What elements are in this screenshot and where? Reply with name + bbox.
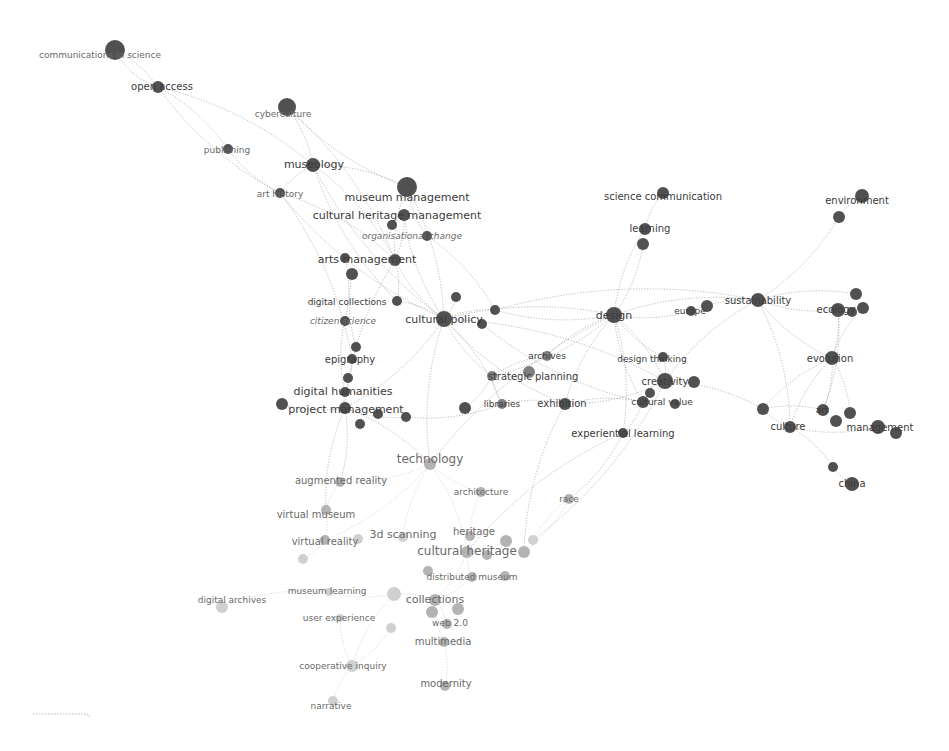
label-museum-learning[interactable]: museum learning <box>288 586 367 596</box>
label-distributed-museum[interactable]: distributed museum <box>427 572 518 582</box>
node-creativity-2[interactable] <box>688 376 700 388</box>
edge-evolution-culture_hub <box>763 358 832 409</box>
label-art-history[interactable]: art history <box>257 189 304 199</box>
node-art-3[interactable] <box>844 407 856 419</box>
label-creativity[interactable]: creativity <box>642 376 689 387</box>
edge-culture_hub-art <box>763 406 823 410</box>
edge-user_experience-cooperative_inquiry <box>340 618 352 666</box>
label-organisational-change[interactable]: organisational change <box>362 231 463 241</box>
label-web-2-0[interactable]: web 2.0 <box>432 618 468 628</box>
label-cultural-heritage[interactable]: cultural heritage <box>417 544 517 558</box>
node-ch-4[interactable] <box>528 535 538 545</box>
label-epigraphy[interactable]: epigraphy <box>325 354 376 365</box>
label-libraries[interactable]: libraries <box>484 399 521 409</box>
label-architecture[interactable]: architecture <box>454 487 509 497</box>
label-digital-archives[interactable]: digital archives <box>198 595 267 605</box>
node-collections-left[interactable] <box>387 587 401 601</box>
label-europe[interactable]: europe <box>674 306 706 316</box>
label-technology[interactable]: technology <box>397 452 464 466</box>
edge-sustainability-environment_2 <box>758 217 839 300</box>
label-digital-humanities[interactable]: digital humanities <box>294 385 393 398</box>
node-culture-hub[interactable] <box>757 403 769 415</box>
label-museum-management[interactable]: museum management <box>344 191 470 204</box>
edge-experiential_learning-race <box>569 433 623 499</box>
label-virtual-reality[interactable]: virtual reality <box>292 536 359 547</box>
label-augmented-reality[interactable]: augmented reality <box>295 475 387 486</box>
label-design[interactable]: design <box>596 309 633 322</box>
node-cp-near-2[interactable] <box>490 305 500 315</box>
label-citizen-science[interactable]: citizen science <box>310 316 377 326</box>
edge-arts_management_3-epigraphy_2 <box>349 274 356 347</box>
label-cultural-policy[interactable]: cultural policy <box>405 313 483 326</box>
label-strategic-planning[interactable]: strategic planning <box>488 371 579 382</box>
label-learning[interactable]: learning <box>630 223 671 234</box>
node-china-2[interactable] <box>828 462 838 472</box>
keyword-network-diagram: communications in scienceopen accesscybe… <box>0 0 949 751</box>
label-archives[interactable]: archives <box>528 351 566 361</box>
label-culture[interactable]: culture <box>771 421 806 432</box>
label-collections[interactable]: collections <box>406 593 465 606</box>
edge-design-experiential_learning <box>614 315 626 433</box>
edge-open_access-publishing <box>158 87 228 149</box>
label-sustainability[interactable]: sustainability <box>725 295 792 306</box>
label-cooperative-inquiry[interactable]: cooperative inquiry <box>299 661 387 671</box>
node-epigraphy-2[interactable] <box>351 342 361 352</box>
edge-arts_management-cultural_policy <box>395 260 444 319</box>
edge-project_management-virtual_museum <box>326 408 345 510</box>
label-virtual-museum[interactable]: virtual museum <box>277 509 356 520</box>
label-science-communication[interactable]: science communication <box>604 191 722 202</box>
label-evolution[interactable]: evolution <box>807 353 853 364</box>
label-cultural-heritage-management[interactable]: cultural heritage management <box>313 209 482 222</box>
node-pm-below[interactable] <box>355 419 365 429</box>
label-user-experience[interactable]: user experience <box>303 613 376 623</box>
edge-arts_management_2-citizen_science <box>345 258 349 321</box>
label-management[interactable]: management <box>847 422 914 433</box>
edge-open_access-art_history <box>158 87 280 193</box>
label-experiential-learning[interactable]: experiential learning <box>571 428 674 439</box>
edge-project_management-augmented_reality <box>340 408 347 482</box>
node-epigraphy-3[interactable] <box>343 373 353 383</box>
node-digital-collections[interactable] <box>392 296 402 306</box>
label-design-thinking[interactable]: design thinking <box>617 354 686 364</box>
edge-museology-cultural_policy <box>313 165 444 319</box>
node-environment-2[interactable] <box>833 211 845 223</box>
node-arts-management-3[interactable] <box>346 268 358 280</box>
label-communications-in-science[interactable]: communications in science <box>39 50 162 60</box>
node-learning-2[interactable] <box>637 238 649 250</box>
label-art[interactable]: art <box>816 405 829 415</box>
label-multimedia[interactable]: multimedia <box>415 636 472 647</box>
edge-publishing-art_history <box>228 149 280 193</box>
scale-bar <box>33 714 90 717</box>
label-digital-collections[interactable]: digital collections <box>308 297 387 307</box>
edge-cultural_policy-libraries <box>444 319 502 404</box>
label-environment[interactable]: environment <box>825 195 889 206</box>
label-open-access[interactable]: open access <box>131 81 193 92</box>
label-race[interactable]: race <box>559 494 579 504</box>
label-narrative[interactable]: narrative <box>311 701 352 711</box>
label-arts-management[interactable]: arts management <box>318 253 417 266</box>
edge-cp_near_2-sustainability <box>495 289 758 310</box>
labels-layer: communications in scienceopen accesscybe… <box>39 50 914 711</box>
node-pm-left[interactable] <box>276 398 288 410</box>
node-ch-3[interactable] <box>518 546 530 558</box>
edge-culture-china_2 <box>790 427 833 467</box>
label-publishing[interactable]: publishing <box>204 145 250 155</box>
label-cyberculture[interactable]: cyberculture <box>255 109 312 119</box>
node-cp-near-1[interactable] <box>451 292 461 302</box>
label-3d-scanning[interactable]: 3d scanning <box>370 528 437 541</box>
node-vr-below[interactable] <box>298 554 308 564</box>
node-libraries-left[interactable] <box>459 402 471 414</box>
node-collections-2[interactable] <box>426 606 438 618</box>
label-modernity[interactable]: modernity <box>420 678 471 689</box>
node-ux-near[interactable] <box>386 623 396 633</box>
label-project-management[interactable]: project management <box>288 403 404 416</box>
node-art-2[interactable] <box>830 415 842 427</box>
label-heritage[interactable]: heritage <box>453 526 495 537</box>
label-museology[interactable]: museology <box>284 158 345 171</box>
label-exhibition[interactable]: exhibition <box>537 398 586 409</box>
label-ecology[interactable]: ecology <box>817 304 856 315</box>
label-china[interactable]: china <box>838 478 865 489</box>
node-ecology-3[interactable] <box>857 302 869 314</box>
node-ecology-2[interactable] <box>850 288 862 300</box>
label-cultural-value[interactable]: cultural value <box>631 397 693 407</box>
